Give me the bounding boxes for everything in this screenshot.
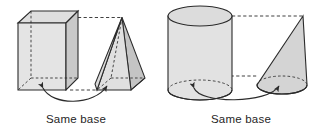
rectangular-prism: [18, 11, 78, 90]
cylinder-top-ellipse: [168, 6, 232, 26]
same-base-figure: Same base: [0, 0, 329, 132]
cylinder-body: [168, 16, 232, 100]
cylinder: [168, 6, 232, 100]
caption-left: Same base: [46, 113, 106, 125]
geometry-diagram: Same base: [0, 0, 329, 132]
caption-right: Same base: [211, 113, 271, 125]
prism-front-face: [18, 23, 66, 90]
